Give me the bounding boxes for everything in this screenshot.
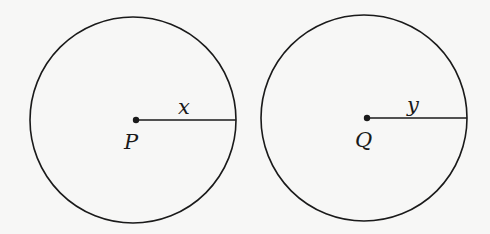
center-label-q: Q	[355, 128, 372, 152]
diagram: x P y Q	[0, 0, 490, 234]
center-point-p	[133, 117, 139, 123]
radius-label-y: y	[406, 93, 420, 117]
radius-label-x: x	[178, 95, 190, 119]
center-point-q	[364, 115, 370, 121]
circle-p-figure: x P	[30, 17, 236, 223]
circle-q-figure: y Q	[261, 15, 467, 221]
center-label-p: P	[123, 130, 139, 154]
